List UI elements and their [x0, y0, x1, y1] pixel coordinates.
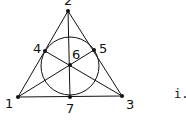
point-2	[66, 9, 70, 13]
line-1-2	[18, 11, 68, 97]
caption: i.	[174, 87, 186, 101]
fano-plane-diagram: 1 2 3 4 5 6 7 i.	[0, 0, 186, 130]
label-5: 5	[99, 41, 107, 56]
labels: 1 2 3 4 5 6 7 i.	[5, 0, 186, 116]
point-4	[43, 49, 47, 53]
line-2-7	[68, 11, 70, 97]
label-3: 3	[126, 97, 134, 112]
point-6	[68, 63, 72, 67]
point-7	[68, 95, 72, 99]
label-2: 2	[64, 0, 72, 8]
label-6: 6	[72, 47, 80, 62]
label-1: 1	[5, 96, 13, 111]
point-3	[120, 94, 124, 98]
label-4: 4	[33, 41, 41, 56]
point-1	[16, 95, 20, 99]
label-7: 7	[66, 101, 74, 116]
point-5	[92, 48, 96, 52]
